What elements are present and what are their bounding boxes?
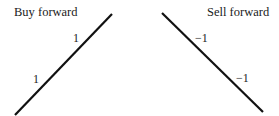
forward-payoff-diagram: Buy forward 1 1 Sell forward −1 −1 bbox=[0, 0, 279, 116]
sell-forward-payoff-line bbox=[162, 13, 263, 112]
sell-forward-title: Sell forward bbox=[207, 6, 269, 19]
buy-forward-slope-label-upper: 1 bbox=[73, 32, 79, 44]
sell-forward-slope-label-upper: −1 bbox=[195, 32, 208, 44]
buy-forward-title: Buy forward bbox=[14, 6, 78, 19]
sell-forward-slope-label-lower: −1 bbox=[236, 72, 249, 84]
buy-forward-slope-label-lower: 1 bbox=[33, 73, 39, 85]
buy-forward-payoff-line bbox=[15, 14, 112, 115]
